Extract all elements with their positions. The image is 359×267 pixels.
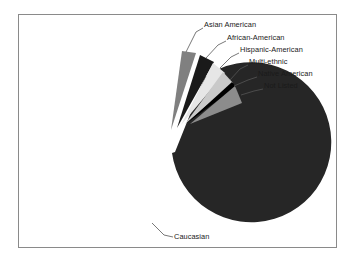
leader-line-african-american <box>206 41 226 58</box>
pie-label-caucasian: Caucasian <box>174 232 209 241</box>
leader-line-caucasian <box>152 223 173 237</box>
pie-label-multi-ethnic: Multi-ethnic <box>249 57 287 66</box>
chart-screenshot: Asian American African-American Hispanic… <box>0 0 359 267</box>
pie-label-african-american: African-American <box>227 33 284 42</box>
pie-chart-graphic <box>0 0 359 267</box>
pie-label-asian-american: Asian American <box>204 20 256 29</box>
pie-label-not-listed: Not Listed <box>264 81 298 90</box>
pie-label-native-american: Native American <box>258 69 313 78</box>
pie-label-hispanic-american: Hispanic-American <box>240 45 303 54</box>
leader-line-asian-american <box>186 28 203 52</box>
